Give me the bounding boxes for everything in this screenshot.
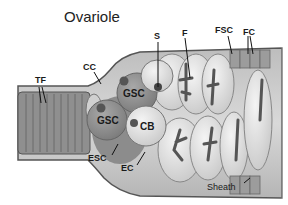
- label-gsc-bottom: GSC: [97, 115, 119, 126]
- label-ec: EC: [121, 163, 134, 173]
- label-fc: FC: [243, 27, 255, 37]
- label-tf: TF: [35, 75, 46, 85]
- label-cc: CC: [83, 62, 96, 72]
- diagram-title: Ovariole: [64, 8, 120, 25]
- label-cb: CB: [140, 121, 154, 132]
- label-gsc-top: GSC: [123, 88, 145, 99]
- label-sheath: Sheath: [207, 182, 236, 192]
- label-f: F: [182, 28, 188, 38]
- label-esc: ESC: [88, 153, 107, 163]
- label-fsc: FSC: [215, 25, 233, 35]
- label-s: S: [154, 31, 160, 41]
